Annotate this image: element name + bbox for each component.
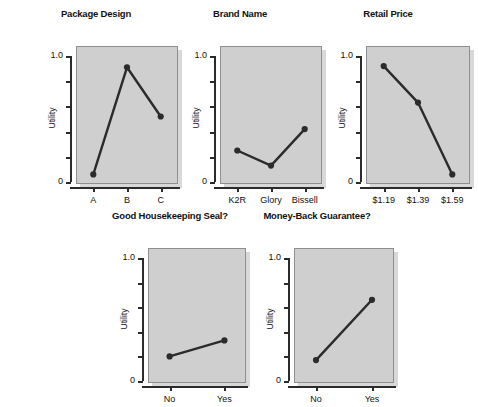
y-tick bbox=[356, 157, 361, 159]
y-tick-label: 1.0 bbox=[108, 252, 135, 262]
y-tick bbox=[284, 381, 289, 383]
y-tick bbox=[138, 356, 143, 358]
chart-title: Brand Name bbox=[172, 8, 308, 19]
plot-area bbox=[294, 248, 394, 383]
y-tick-label: 1.0 bbox=[326, 50, 353, 60]
y-tick bbox=[284, 258, 289, 260]
x-axis-line bbox=[142, 386, 248, 388]
chart-title: Package Design bbox=[28, 8, 164, 19]
chart-panel-2: Brand Name1.00UtilityK2RGloryBissell bbox=[172, 8, 308, 204]
chart-title: Money-Back Guarantee? bbox=[246, 210, 388, 221]
y-tick bbox=[356, 182, 361, 184]
y-tick bbox=[66, 56, 71, 58]
y-tick bbox=[356, 132, 361, 134]
x-tick-label: No bbox=[286, 394, 346, 404]
y-tick bbox=[66, 106, 71, 108]
x-tick bbox=[452, 187, 454, 192]
x-tick bbox=[418, 187, 420, 192]
chart-panel-3: Retail Price1.00Utility$1.19$1.39$1.59 bbox=[318, 8, 458, 204]
y-tick bbox=[356, 56, 361, 58]
y-tick-label: 0 bbox=[108, 375, 135, 385]
x-axis-line bbox=[360, 187, 472, 189]
y-tick bbox=[284, 356, 289, 358]
y-tick-label: 0 bbox=[36, 176, 63, 186]
x-tick bbox=[127, 187, 129, 192]
x-tick-label: Yes bbox=[342, 394, 402, 404]
y-axis-line bbox=[142, 258, 144, 381]
y-tick-label: 0 bbox=[326, 176, 353, 186]
y-tick-label: 0 bbox=[254, 375, 281, 385]
x-tick bbox=[384, 187, 386, 192]
y-tick bbox=[138, 381, 143, 383]
y-axis-line bbox=[360, 56, 362, 182]
chart-panel-5: Money-Back Guarantee?1.00UtilityNoYes bbox=[246, 210, 388, 400]
y-tick bbox=[66, 81, 71, 83]
y-axis-line bbox=[214, 56, 216, 182]
y-tick bbox=[210, 56, 215, 58]
x-tick bbox=[372, 386, 374, 391]
x-axis-line bbox=[214, 187, 324, 189]
y-tick bbox=[284, 332, 289, 334]
chart-panel-1: Package Design1.00UtilityABC bbox=[28, 8, 164, 204]
chart-title: Good Housekeeping Seal? bbox=[100, 210, 240, 221]
x-tick bbox=[316, 386, 318, 391]
x-tick bbox=[224, 386, 226, 391]
x-axis-line bbox=[288, 386, 396, 388]
y-tick bbox=[210, 132, 215, 134]
y-tick-label: 1.0 bbox=[180, 50, 207, 60]
y-tick bbox=[66, 157, 71, 159]
x-tick bbox=[161, 187, 163, 192]
chart-title: Retail Price bbox=[318, 8, 458, 19]
y-axis-line bbox=[288, 258, 290, 381]
plot-area bbox=[76, 46, 178, 184]
y-tick bbox=[210, 182, 215, 184]
y-tick bbox=[210, 157, 215, 159]
x-tick bbox=[170, 386, 172, 391]
x-tick-label: $1.59 bbox=[422, 195, 478, 205]
y-axis-label: Utility bbox=[191, 88, 201, 148]
y-tick-label: 1.0 bbox=[36, 50, 63, 60]
y-tick bbox=[138, 307, 143, 309]
y-tick bbox=[284, 307, 289, 309]
y-tick-label: 1.0 bbox=[254, 252, 281, 262]
y-tick bbox=[66, 132, 71, 134]
x-tick bbox=[237, 187, 239, 192]
y-axis-label: Utility bbox=[337, 88, 347, 148]
x-tick-label: No bbox=[140, 394, 200, 404]
x-tick bbox=[93, 187, 95, 192]
x-axis-line bbox=[70, 187, 180, 189]
y-axis-label: Utility bbox=[47, 88, 57, 148]
y-tick bbox=[138, 283, 143, 285]
plot-area bbox=[148, 248, 246, 383]
x-tick bbox=[271, 187, 273, 192]
y-axis-line bbox=[70, 56, 72, 182]
y-tick bbox=[210, 106, 215, 108]
x-tick bbox=[305, 187, 307, 192]
y-tick bbox=[138, 332, 143, 334]
y-tick bbox=[284, 283, 289, 285]
y-tick bbox=[138, 258, 143, 260]
y-axis-label: Utility bbox=[119, 289, 129, 349]
y-tick bbox=[66, 182, 71, 184]
y-axis-label: Utility bbox=[265, 289, 275, 349]
y-tick bbox=[210, 81, 215, 83]
y-tick bbox=[356, 81, 361, 83]
chart-panel-4: Good Housekeeping Seal?1.00UtilityNoYes bbox=[100, 210, 240, 400]
plot-area bbox=[366, 46, 470, 184]
plot-area bbox=[220, 46, 322, 184]
y-tick bbox=[356, 106, 361, 108]
y-tick-label: 0 bbox=[180, 176, 207, 186]
